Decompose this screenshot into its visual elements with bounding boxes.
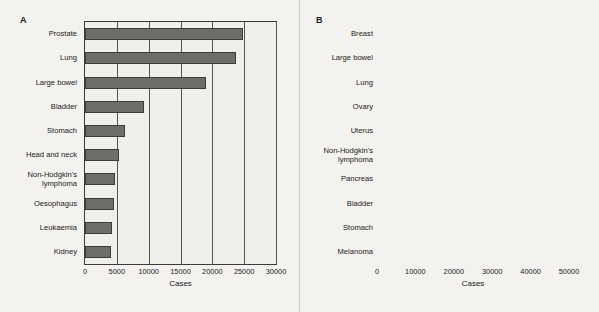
gridline (276, 22, 277, 264)
x-tick-label: 10000 (138, 267, 159, 276)
gridline (244, 22, 245, 264)
bar (85, 77, 206, 89)
bar (85, 198, 114, 210)
x-tick-label: 10000 (405, 267, 426, 276)
category-label: Lung (0, 53, 77, 62)
bar (85, 28, 243, 40)
category-label: Bladder (293, 199, 373, 208)
x-tick-label: 25000 (234, 267, 255, 276)
category-label: Non-Hodgkin's lymphoma (0, 170, 77, 188)
category-label: Stomach (293, 223, 373, 232)
x-tick-label: 15000 (170, 267, 191, 276)
bar (85, 125, 125, 137)
category-label: Pancreas (293, 174, 373, 183)
chart-panel-b: B BreastLarge bowelLungOvaryUterusNon-Ho… (300, 0, 599, 312)
panel-a-letter: A (20, 15, 27, 25)
bar (85, 246, 111, 258)
bar (85, 222, 112, 234)
category-label: Leukaemia (0, 223, 77, 232)
chart-panel-a: A ProstateLungLarge bowelBladderStomachH… (0, 0, 299, 312)
panel-b-letter: B (316, 15, 323, 25)
x-tick-label: 50000 (559, 267, 580, 276)
category-label: Prostate (0, 29, 77, 38)
category-label: Uterus (293, 126, 373, 135)
category-label: Non-Hodgkin's lymphoma (293, 146, 373, 164)
plot-area-a (84, 21, 277, 265)
x-tick-label: 30000 (482, 267, 503, 276)
category-label: Ovary (293, 102, 373, 111)
category-label: Oesophagus (0, 199, 77, 208)
x-tick-label: 5000 (109, 267, 125, 276)
category-label: Melanoma (293, 247, 373, 256)
bar (85, 101, 144, 113)
x-tick-label: 0 (83, 267, 87, 276)
bar (85, 173, 115, 185)
category-label: Kidney (0, 247, 77, 256)
x-tick-label: 20000 (202, 267, 223, 276)
x-tick-label: 0 (375, 267, 379, 276)
category-label: Large bowel (293, 53, 373, 62)
category-label: Large bowel (0, 78, 77, 87)
x-tick-label: 30000 (266, 267, 287, 276)
x-tick-label: 20000 (444, 267, 465, 276)
category-label: Breast (293, 29, 373, 38)
category-label: Lung (293, 78, 373, 87)
figure-container: A ProstateLungLarge bowelBladderStomachH… (0, 0, 599, 312)
x-tick-label: 40000 (520, 267, 541, 276)
x-axis-title: Cases (462, 279, 485, 288)
bar (85, 149, 119, 161)
x-axis-title: Cases (169, 279, 192, 288)
bar (85, 52, 236, 64)
category-label: Stomach (0, 126, 77, 135)
category-label: Bladder (0, 102, 77, 111)
category-label: Head and neck (0, 150, 77, 159)
